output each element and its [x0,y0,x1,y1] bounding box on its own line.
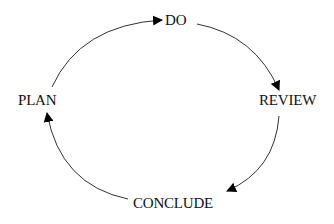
node-review: REVIEW [259,92,316,108]
arrow-review-to-conclude [227,116,279,191]
arrow-conclude-to-plan [47,113,128,199]
cycle-arrows [0,0,334,224]
node-plan: PLAN [18,92,56,108]
node-conclude: CONCLUDE [133,195,213,211]
pdcr-cycle-diagram: DO REVIEW CONCLUDE PLAN [0,0,334,224]
arrow-plan-to-do [52,20,162,87]
node-do: DO [165,12,186,28]
arrow-do-to-review [197,24,279,90]
